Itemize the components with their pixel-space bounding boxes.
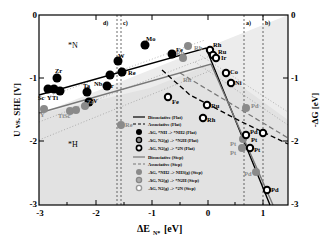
svg-text:-3: -3: [36, 208, 44, 218]
vline-label-d: d): [103, 20, 108, 27]
legend-entry-3: -ΔG, N2(g) -> *N2H (Flat): [148, 138, 199, 143]
svg-text:Ir: Ir: [221, 54, 227, 61]
svg-text:Re: Re: [125, 121, 133, 128]
vline-label-c: c): [123, 20, 128, 27]
legend-entry-2: -ΔG, *NH -> *NH2 (Flat): [148, 130, 197, 135]
legend-entry-0: Dissociative (Flat): [148, 115, 183, 120]
svg-text:0: 0: [33, 10, 38, 20]
y-axis-label: U vs. SHE [V]: [12, 83, 22, 137]
svg-text:-2: -2: [291, 136, 299, 146]
svg-text:W: W: [118, 52, 125, 59]
svg-text:Ru: Ru: [176, 49, 185, 56]
svg-text:Zr: Zr: [87, 98, 94, 105]
svg-text:-1: -1: [148, 208, 156, 218]
svg-text:N*: N*: [153, 230, 160, 236]
svg-text:Re: Re: [128, 69, 136, 76]
svg-text:Zr: Zr: [55, 67, 62, 74]
svg-text:Ta: Ta: [83, 82, 91, 89]
legend-entry-4: -ΔG, N2(g) -> *2N (Flat): [148, 146, 195, 151]
svg-text:Pd: Pd: [250, 128, 258, 135]
svg-text:-2: -2: [92, 208, 100, 218]
svg-text:ΔE: ΔE: [137, 223, 150, 234]
svg-text:Ru: Ru: [211, 102, 220, 109]
svg-text:-1: -1: [291, 73, 299, 83]
svg-text:Y: Y: [40, 111, 45, 118]
svg-text:Pd: Pd: [271, 186, 279, 193]
svg-text:Pt: Pt: [254, 146, 261, 153]
svg-text:Sc: Sc: [64, 112, 71, 119]
svg-text:-2: -2: [30, 136, 38, 146]
y-tick-labels: 0 -1 -2 -3: [30, 10, 38, 209]
svg-text:Pt: Pt: [230, 149, 237, 156]
vline-label-a: a): [246, 20, 251, 27]
svg-text:Mo: Mo: [146, 35, 155, 42]
svg-text:Rh: Rh: [183, 76, 192, 83]
svg-text:Rh: Rh: [207, 116, 216, 123]
region-label-n: *N: [68, 41, 78, 50]
svg-text:Fe: Fe: [172, 98, 179, 105]
svg-text:Rh: Rh: [194, 44, 203, 51]
svg-text:0: 0: [206, 208, 211, 218]
region-label-h: *H: [68, 140, 78, 149]
svg-text:-1: -1: [30, 73, 38, 83]
svg-text:Nb: Nb: [94, 80, 103, 87]
svg-text:Pd: Pd: [251, 102, 259, 109]
legend-entry-8: -ΔG, N2(g) -> *N2H (Step): [148, 178, 200, 183]
vline-label-b: b): [265, 20, 270, 27]
svg-text:Pt: Pt: [230, 140, 237, 147]
y2-axis-label: -ΔG [eV]: [310, 93, 320, 127]
svg-text:Ti: Ti: [52, 94, 58, 101]
svg-text:Pt: Pt: [251, 136, 258, 143]
svg-text:[eV]: [eV]: [164, 223, 182, 234]
svg-text:Ni: Ni: [235, 79, 242, 86]
legend-entry-9: -ΔG, N2(g) -> *2N (Step): [148, 186, 196, 191]
legend-entry-6: Associative (Step): [148, 162, 183, 167]
x-tick-labels: -3 -2 -1 0 1: [36, 208, 266, 218]
legend-entry-7: -ΔG, *NH2 -> NH3(g) (Step): [148, 170, 203, 175]
y2-tick-labels: 0 -1 -2 -3: [291, 10, 299, 209]
svg-text:Cr: Cr: [106, 82, 114, 89]
legend-entry-5: Dissociative (Step): [148, 155, 184, 160]
volcano-chart: d) c) a) b) *N *H ZrScYTi TaVNbCr WReMoF…: [0, 0, 334, 240]
x-axis-label: ΔE N* [eV]: [137, 223, 182, 236]
svg-text:Co: Co: [230, 68, 238, 75]
svg-text:-3: -3: [291, 199, 299, 209]
svg-text:Pd: Pd: [244, 170, 252, 177]
svg-text:1: 1: [261, 208, 266, 218]
legend-entry-1: Associative (Flat): [148, 122, 182, 127]
svg-text:Rh: Rh: [213, 41, 222, 48]
svg-text:0: 0: [291, 10, 296, 20]
svg-text:-3: -3: [30, 199, 38, 209]
